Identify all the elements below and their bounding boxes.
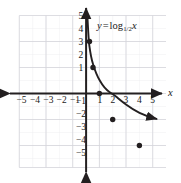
y-tick-neg2: −2 — [76, 110, 86, 120]
point-two-negone — [110, 117, 115, 122]
equation-operator: = — [102, 20, 110, 31]
equation-annotation: y=log1/2x — [97, 21, 137, 32]
y-tick-5: 5 — [79, 12, 84, 22]
grid-minor — [19, 16, 166, 168]
point-quarter-two — [87, 39, 92, 44]
x-tick-neg3: −3 — [43, 96, 53, 106]
equation-base: 1/2 — [123, 25, 132, 32]
grid-major — [19, 16, 166, 168]
y-tick-4: 4 — [79, 25, 84, 35]
x-tick-3: 3 — [124, 96, 129, 106]
logarithmic-function-graph: −5 −4 −3 −2 −1 1 2 3 4 5 5 4 3 2 1 −1 −2… — [0, 0, 181, 183]
x-tick-5: 5 — [150, 96, 155, 106]
y-tick-neg3: −3 — [76, 123, 86, 133]
equation-lhs: y — [97, 20, 102, 31]
y-tick-neg4: −4 — [76, 136, 86, 146]
equation-argument: x — [132, 20, 137, 31]
equation-function: log — [110, 20, 123, 31]
x-tick-neg4: −4 — [30, 96, 40, 106]
x-tick-4: 4 — [137, 96, 142, 106]
y-tick-2: 2 — [79, 51, 84, 61]
y-tick-3: 3 — [79, 38, 84, 48]
point-four-negtwo — [137, 143, 142, 148]
y-tick-neg1: −1 — [76, 97, 86, 107]
y-tick-1: 1 — [79, 64, 84, 74]
graph-canvas — [0, 0, 181, 183]
x-axis-label: x — [168, 88, 173, 99]
x-tick-1: 1 — [97, 96, 102, 106]
x-tick-2: 2 — [110, 96, 115, 106]
x-tick-neg2: −2 — [57, 96, 67, 106]
y-tick-neg5: −5 — [76, 149, 86, 159]
x-tick-neg5: −5 — [17, 96, 27, 106]
point-half-one — [90, 65, 95, 70]
